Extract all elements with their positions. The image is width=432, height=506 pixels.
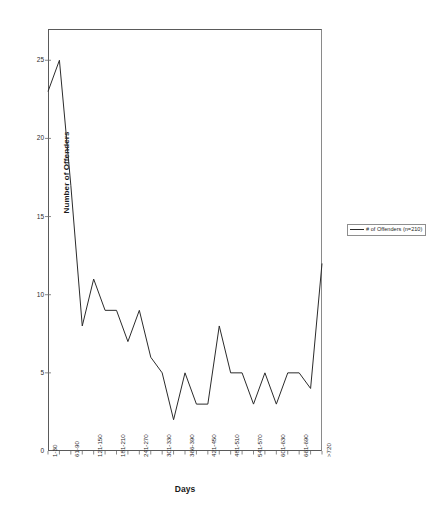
chart-legend: # of Offenders (n=210) bbox=[347, 224, 426, 236]
x-tick-label: 481-510 bbox=[233, 434, 240, 457]
x-tick-label: >720 bbox=[325, 443, 332, 457]
plot-area bbox=[48, 29, 322, 451]
y-tick-label: 5 bbox=[20, 369, 44, 376]
x-axis-label: Days bbox=[48, 484, 322, 494]
legend-line-swatch bbox=[350, 229, 364, 230]
x-tick-label: 301-330 bbox=[165, 434, 172, 457]
x-tick-label: 661-690 bbox=[302, 434, 309, 457]
x-tick-label: 241-270 bbox=[142, 434, 149, 457]
y-tick-label: 0 bbox=[20, 447, 44, 454]
chart-figure: Number of Offenders Days 0510152025 1-30… bbox=[0, 0, 432, 506]
x-tick-label: 1-30 bbox=[51, 445, 58, 457]
y-tick-label: 10 bbox=[20, 291, 44, 298]
x-tick-label: 366-390 bbox=[188, 434, 195, 457]
x-tick-label: 601-630 bbox=[279, 434, 286, 457]
y-axis-label: Number of Offenders bbox=[62, 103, 71, 243]
y-tick-label: 25 bbox=[20, 56, 44, 63]
y-tick-label: 20 bbox=[20, 134, 44, 141]
x-tick-label: 421-450 bbox=[210, 434, 217, 457]
legend-label: # of Offenders (n=210) bbox=[366, 227, 422, 233]
x-tick-label: 541-570 bbox=[256, 434, 263, 457]
x-tick-label: 61-90 bbox=[73, 441, 80, 457]
x-tick-label: 181-210 bbox=[119, 434, 126, 457]
x-tick-label: 121-150 bbox=[96, 434, 103, 457]
y-tick-label: 15 bbox=[20, 213, 44, 220]
